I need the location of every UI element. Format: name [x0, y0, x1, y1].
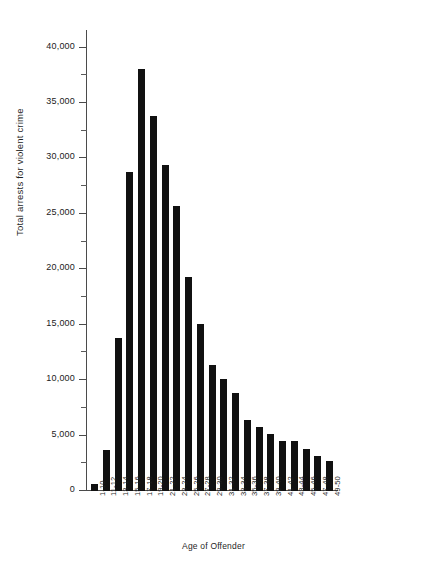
x-tick-label: 33-34 [239, 476, 248, 496]
bar-chart-figure: Total arrests for violent crime 05,00010… [0, 0, 427, 567]
x-tick-label: 27-28 [203, 476, 212, 496]
y-tick-label: 25,000 [15, 207, 75, 217]
x-tick-label: 41-42 [286, 476, 295, 496]
bar [220, 379, 227, 491]
y-major-tick [79, 268, 87, 269]
y-major-tick [79, 47, 87, 48]
y-tick-label: 40,000 [15, 41, 75, 51]
x-tick-label: 45-46 [309, 476, 318, 496]
x-tick-label: 13-14 [121, 476, 130, 496]
x-tick-label: 17-18 [145, 476, 154, 496]
x-tick-label: 39-40 [274, 476, 283, 496]
bar [209, 365, 216, 491]
y-tick-label: 35,000 [15, 96, 75, 106]
x-tick-label: 35-36 [250, 476, 259, 496]
x-tick-label: 29-30 [215, 476, 224, 496]
x-axis-title: Age of Offender [0, 541, 427, 551]
bar [126, 172, 133, 491]
bar [173, 206, 180, 491]
plot-area [87, 30, 417, 491]
x-tick-label: 11-12 [109, 477, 118, 496]
y-major-tick [79, 157, 87, 158]
y-major-tick [79, 490, 87, 491]
y-tick-label: 30,000 [15, 151, 75, 161]
y-major-tick [79, 102, 87, 103]
x-tick-label: 47-48 [321, 476, 330, 496]
y-major-tick [79, 379, 87, 380]
y-major-tick [79, 435, 87, 436]
x-tick-label: 31-32 [227, 476, 236, 496]
x-tick-label: 49-50 [333, 476, 342, 496]
x-tick-label: 15-16 [133, 476, 142, 496]
y-tick-label: 20,000 [15, 262, 75, 272]
x-tick-label: 37-38 [262, 476, 271, 496]
bar [197, 324, 204, 491]
x-tick-label: 1-10 [98, 480, 107, 496]
y-tick-label: 5,000 [15, 429, 75, 439]
bar [115, 338, 122, 491]
bar [138, 69, 145, 491]
y-major-tick [79, 213, 87, 214]
x-tick-label: 43-44 [297, 476, 306, 496]
x-tick-label: 25-26 [192, 476, 201, 496]
bar [185, 277, 192, 491]
x-tick-label: 23-24 [180, 476, 189, 496]
y-tick-label: 0 [15, 484, 75, 494]
bar [162, 165, 169, 491]
y-major-tick [79, 324, 87, 325]
bar [150, 116, 157, 491]
y-tick-label: 10,000 [15, 373, 75, 383]
y-tick-label: 15,000 [15, 318, 75, 328]
x-tick-label: 21-22 [168, 476, 177, 496]
x-tick-label: 19-20 [156, 476, 165, 496]
